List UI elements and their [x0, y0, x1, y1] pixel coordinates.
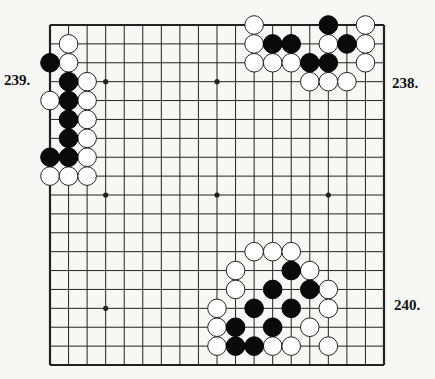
star-point [103, 79, 108, 84]
white-stone [78, 91, 97, 110]
white-stone [263, 242, 282, 261]
white-stone [41, 91, 60, 110]
white-stone [356, 35, 375, 54]
black-stone [245, 337, 264, 356]
star-point [214, 79, 219, 84]
problem-label-240: 240. [394, 297, 420, 314]
white-stone [319, 299, 338, 318]
white-stone [59, 35, 78, 54]
white-stone [78, 110, 97, 129]
go-board [0, 0, 435, 379]
white-stone [356, 16, 375, 35]
white-stone [263, 53, 282, 72]
white-stone [245, 35, 264, 54]
black-stone [263, 280, 282, 299]
black-stone [319, 16, 338, 35]
white-stone [263, 337, 282, 356]
black-stone [59, 72, 78, 91]
black-stone [226, 318, 245, 337]
black-stone [282, 35, 301, 54]
white-stone [226, 261, 245, 280]
black-stone [319, 53, 338, 72]
white-stone [226, 280, 245, 299]
white-stone [245, 53, 264, 72]
white-stone [319, 337, 338, 356]
white-stone [78, 129, 97, 148]
white-stone [282, 53, 301, 72]
black-stone [41, 53, 60, 72]
star-point [214, 192, 219, 197]
white-stone [319, 35, 338, 54]
black-stone [59, 110, 78, 129]
white-stone [319, 280, 338, 299]
white-stone [78, 72, 97, 91]
black-stone [41, 148, 60, 167]
star-point [103, 306, 108, 311]
white-stone [356, 53, 375, 72]
black-stone [226, 337, 245, 356]
problem-label-238: 238. [392, 75, 418, 92]
white-stone [300, 318, 319, 337]
black-stone [263, 35, 282, 54]
black-stone [338, 35, 357, 54]
black-stone [59, 129, 78, 148]
black-stone [59, 148, 78, 167]
white-stone [338, 72, 357, 91]
white-stone [78, 148, 97, 167]
black-stone [59, 91, 78, 110]
black-stone [245, 299, 264, 318]
white-stone [282, 337, 301, 356]
white-stone [41, 167, 60, 186]
star-point [103, 192, 108, 197]
white-stone [59, 167, 78, 186]
white-stone [78, 167, 97, 186]
problem-label-239: 239. [4, 72, 30, 89]
black-stone [282, 261, 301, 280]
black-stone [300, 53, 319, 72]
white-stone [208, 299, 227, 318]
star-point [326, 192, 331, 197]
white-stone [300, 261, 319, 280]
white-stone [282, 242, 301, 261]
black-stone [263, 318, 282, 337]
white-stone [59, 53, 78, 72]
black-stone [300, 280, 319, 299]
black-stone [282, 299, 301, 318]
white-stone [245, 16, 264, 35]
white-stone [208, 337, 227, 356]
white-stone [245, 242, 264, 261]
white-stone [300, 72, 319, 91]
white-stone [319, 72, 338, 91]
white-stone [208, 318, 227, 337]
